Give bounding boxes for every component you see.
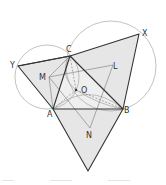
watermark-mark-2 — [50, 180, 72, 181]
label-x: X — [142, 29, 148, 38]
label-m: M — [39, 73, 46, 82]
watermark-mark-1 — [2, 180, 14, 181]
geometry-diagram: C X Y M L O A B N — [0, 0, 166, 185]
label-a: A — [47, 110, 53, 119]
watermark-mark-3 — [108, 180, 130, 181]
label-o: O — [81, 86, 87, 95]
point-o — [75, 89, 77, 91]
label-l: L — [113, 62, 118, 71]
label-n: N — [86, 131, 92, 140]
label-b: B — [124, 106, 130, 115]
triangle-abz — [53, 109, 123, 171]
label-c: C — [66, 45, 72, 54]
label-y: Y — [9, 61, 15, 70]
